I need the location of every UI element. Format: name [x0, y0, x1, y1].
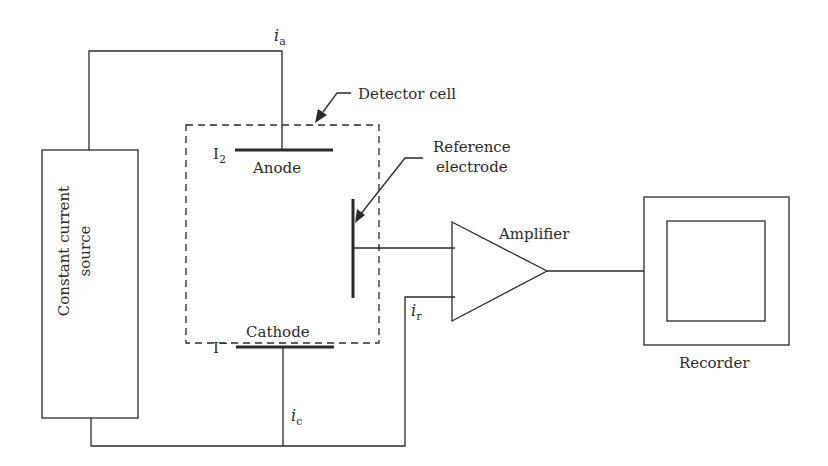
current-ir-label: ir	[411, 303, 421, 322]
cathode-species-label: I−	[213, 338, 228, 356]
source-label-line2: source	[75, 186, 96, 316]
detector-circuit-diagram: Constant current source ia Detector cell…	[0, 0, 828, 466]
cathode-label: Cathode	[246, 325, 310, 340]
anode-label: Anode	[253, 161, 301, 176]
species-sub: 2	[219, 153, 226, 166]
anode-species-label: I2	[213, 147, 226, 165]
detector-leader	[323, 93, 351, 112]
source-label: Constant current source	[41, 148, 109, 354]
detector-cell-label: Detector cell	[358, 87, 456, 102]
recorder-label: Recorder	[679, 356, 749, 371]
anode-wire	[89, 51, 282, 150]
source-label-line1: Constant current	[54, 186, 75, 316]
current-subscript: c	[296, 415, 302, 428]
species-sup: −	[219, 337, 228, 350]
current-subscript: r	[416, 310, 421, 323]
current-subscript: a	[279, 35, 286, 48]
reference-line2: electrode	[433, 157, 511, 177]
reference-electrode-label: Reference electrode	[433, 137, 511, 177]
recorder-inner	[667, 221, 765, 321]
circuit-wires	[0, 0, 828, 466]
bottom-wire	[91, 297, 455, 446]
current-ia-label: ia	[274, 28, 286, 47]
recorder-outer	[644, 197, 789, 345]
amplifier-label: Amplifier	[499, 227, 569, 242]
detector-arrowhead	[315, 109, 327, 123]
reference-leader	[360, 158, 423, 215]
reference-line1: Reference	[433, 137, 511, 157]
current-ic-label: ic	[291, 408, 302, 427]
